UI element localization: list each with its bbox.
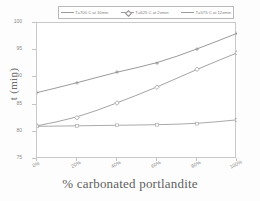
data-point bbox=[76, 124, 79, 127]
x-tick-mark bbox=[236, 158, 237, 161]
plot-area bbox=[36, 22, 236, 158]
plot-svg bbox=[37, 23, 237, 159]
data-point bbox=[115, 101, 120, 106]
series-line-2 bbox=[37, 53, 237, 126]
x-tick-mark bbox=[196, 158, 197, 161]
data-point bbox=[75, 81, 79, 85]
data-point bbox=[195, 47, 199, 51]
y-tick-label: 100 bbox=[4, 19, 22, 24]
legend-item-series-2: T=625 C at 2xmin bbox=[121, 10, 168, 16]
data-point bbox=[115, 70, 119, 74]
legend-label-series-1: T=700 C at 10min bbox=[75, 10, 108, 16]
x-tick-mark bbox=[36, 158, 37, 161]
legend-marker-line-icon bbox=[181, 10, 194, 15]
data-point bbox=[196, 122, 199, 125]
data-point bbox=[156, 123, 159, 126]
legend-label-series-2: T=625 C at 2xmin bbox=[135, 10, 168, 16]
data-point bbox=[116, 124, 119, 127]
data-point bbox=[195, 67, 200, 72]
chart-legend: T=700 C at 10min T=625 C at 2xmin T=575 … bbox=[58, 6, 234, 19]
x-tick-mark bbox=[76, 158, 77, 161]
legend-item-series-3: T=575 C at 12xmin bbox=[181, 10, 231, 16]
y-axis-title: t (min) bbox=[7, 49, 19, 119]
legend-item-series-1: T=700 C at 10min bbox=[61, 10, 108, 16]
data-point bbox=[37, 125, 38, 128]
data-point bbox=[236, 118, 237, 121]
x-tick-mark bbox=[156, 158, 157, 161]
data-point bbox=[235, 31, 237, 35]
y-tick-label: 75 bbox=[4, 155, 22, 160]
series-line-3 bbox=[37, 120, 237, 127]
x-tick-mark bbox=[116, 158, 117, 161]
legend-marker-diamond-icon bbox=[121, 10, 134, 15]
legend-marker-cross-icon bbox=[61, 10, 74, 15]
y-tick-label: 80 bbox=[4, 128, 22, 133]
data-point bbox=[37, 91, 39, 95]
data-point bbox=[235, 51, 237, 56]
series-line-1 bbox=[37, 33, 237, 92]
x-axis-title: % carbonated portlandite bbox=[0, 176, 260, 192]
data-point bbox=[155, 85, 160, 90]
chart-container: T=700 C at 10min T=625 C at 2xmin T=575 … bbox=[0, 0, 260, 201]
legend-label-series-3: T=575 C at 12xmin bbox=[195, 10, 231, 16]
